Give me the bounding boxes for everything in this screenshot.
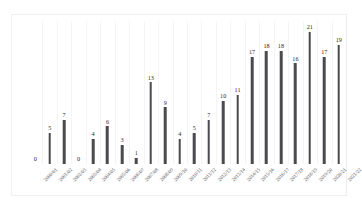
bar-slot[interactable]: 21	[303, 21, 317, 164]
bar[interactable]	[135, 158, 138, 164]
bar-value-label: 4	[178, 131, 181, 137]
bar-slot[interactable]: 7	[57, 21, 71, 164]
bar-value-label: 19	[336, 37, 342, 43]
bar[interactable]	[337, 45, 340, 164]
bar-value-label: 11	[235, 87, 241, 93]
bar-slot[interactable]: 9	[158, 21, 172, 164]
bar-slot[interactable]: 4	[173, 21, 187, 164]
bar[interactable]	[251, 57, 254, 164]
bar-value-label: 17	[249, 49, 255, 55]
bar-value-label: 6	[106, 119, 109, 125]
bar-slot[interactable]: 4	[86, 21, 100, 164]
chart-frame: 05704631139457101117181816211719 2000/01…	[11, 14, 347, 196]
bar-slot[interactable]: 13	[144, 21, 158, 164]
bar-value-label: 9	[164, 100, 167, 106]
bar-value-label: 7	[63, 112, 66, 118]
bar[interactable]	[294, 63, 297, 164]
bar-slot[interactable]: 16	[288, 21, 302, 164]
bar-value-label: 3	[120, 137, 123, 143]
x-tick-label: 2009/10	[173, 167, 188, 182]
bar-value-label: 0	[34, 156, 37, 162]
x-tick-label: 2020/21	[332, 167, 347, 182]
x-tick-label: 2013/14	[231, 167, 246, 182]
x-tick-label: 2004/05	[101, 167, 116, 182]
x-tick-label: 2021/22	[347, 167, 362, 182]
x-tick-label: 2002/03	[72, 167, 87, 182]
x-tick-label: 2015/16	[260, 167, 275, 182]
plot-area: 05704631139457101117181816211719	[28, 21, 346, 164]
bar-value-label: 21	[307, 24, 313, 30]
bar-slot[interactable]: 10	[216, 21, 230, 164]
x-tick-label: 2018/19	[303, 167, 318, 182]
x-tick-label: 2000/01	[43, 167, 58, 182]
x-tick-label: 2017/18	[289, 167, 304, 182]
bar-value-label: 5	[48, 125, 51, 131]
bar[interactable]	[309, 32, 312, 164]
bar[interactable]	[106, 126, 109, 164]
bar-value-label: 10	[220, 93, 226, 99]
bar-slot[interactable]: 3	[115, 21, 129, 164]
bar[interactable]	[92, 139, 95, 164]
bar-value-label: 0	[77, 156, 80, 162]
x-tick-label: 2010/11	[188, 167, 203, 182]
bar[interactable]	[193, 133, 196, 164]
bar-slot[interactable]: 1	[129, 21, 143, 164]
bar[interactable]	[178, 139, 181, 164]
bar[interactable]	[48, 133, 51, 164]
bar-value-label: 17	[321, 49, 327, 55]
bar-value-label: 13	[148, 75, 154, 81]
bar-value-label: 5	[193, 125, 196, 131]
bar-value-label: 18	[278, 43, 284, 49]
bar-slot[interactable]: 11	[230, 21, 244, 164]
bar[interactable]	[63, 120, 66, 164]
bar[interactable]	[207, 120, 210, 164]
bar-value-label: 16	[292, 56, 298, 62]
bar-slot[interactable]: 5	[42, 21, 56, 164]
x-tick-label: 2008/09	[159, 167, 174, 182]
x-tick-label: 2003/04	[86, 167, 101, 182]
bar-value-label: 18	[263, 43, 269, 49]
bar[interactable]	[265, 51, 268, 164]
x-tick-label: 2001/02	[58, 167, 73, 182]
x-tick-label: 2012/13	[217, 167, 232, 182]
bar-slot[interactable]: 19	[332, 21, 346, 164]
bar-series: 05704631139457101117181816211719	[28, 21, 346, 164]
x-tick-label: 2014/15	[245, 167, 260, 182]
bar[interactable]	[164, 107, 167, 164]
x-tick-label: 2006/07	[130, 167, 145, 182]
bar-slot[interactable]: 18	[259, 21, 273, 164]
bar-value-label: 1	[135, 150, 138, 156]
x-tick-label: 2016/17	[274, 167, 289, 182]
bar[interactable]	[323, 57, 326, 164]
x-tick-label: 2007/08	[144, 167, 159, 182]
bar-slot[interactable]: 0	[71, 21, 85, 164]
bar[interactable]	[121, 145, 124, 164]
bar[interactable]	[280, 51, 283, 164]
x-tick-label: 2005/06	[115, 167, 130, 182]
bar-slot[interactable]: 17	[317, 21, 331, 164]
bar-slot[interactable]: 6	[100, 21, 114, 164]
x-tick-label: 2019/20	[318, 167, 333, 182]
bar[interactable]	[150, 82, 153, 164]
bar-slot[interactable]: 5	[187, 21, 201, 164]
x-tick-label: 2011/12	[202, 167, 217, 182]
bar[interactable]	[236, 95, 239, 164]
bar-slot[interactable]: 18	[274, 21, 288, 164]
x-axis-tick-labels: 2000/012001/022002/032003/042004/052005/…	[28, 165, 346, 211]
bar[interactable]	[222, 101, 225, 164]
bar-value-label: 4	[91, 131, 94, 137]
bar-slot[interactable]: 17	[245, 21, 259, 164]
bar-value-label: 7	[207, 112, 210, 118]
bar-slot[interactable]: 0	[28, 21, 42, 164]
bar-slot[interactable]: 7	[201, 21, 215, 164]
